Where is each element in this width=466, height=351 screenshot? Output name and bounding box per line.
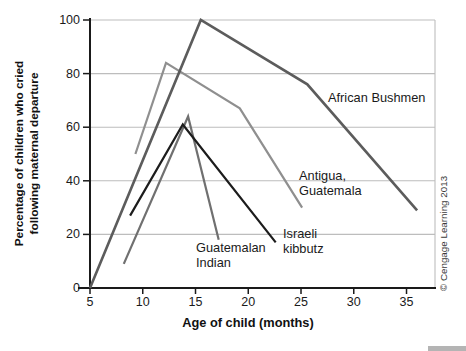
series-label-line: Guatemala <box>299 183 362 198</box>
x-tick-label-35: 35 <box>392 295 422 309</box>
y-axis-title: Percentage of children who cried followi… <box>12 4 41 304</box>
y-tick-label-60: 60 <box>42 120 80 134</box>
separation-anxiety-chart: Percentage of children who cried followi… <box>0 0 466 351</box>
x-axis-title: Age of child (months) <box>128 315 368 330</box>
series-label-antigua-guatemala: Antigua,Guatemala <box>299 168 362 198</box>
series-label-line: Guatemalan <box>196 240 266 255</box>
series-label-line: Israeli <box>283 226 324 241</box>
series-line-antigua-guatemala <box>135 63 302 208</box>
x-tick-label-30: 30 <box>339 295 369 309</box>
series-label-israeli-kibbutz: Israelikibbutz <box>283 226 324 256</box>
series-label-line: African Bushmen <box>328 90 425 105</box>
series-label-line: Indian <box>196 255 266 270</box>
y-tick-label-100: 100 <box>42 13 80 27</box>
series-label-line: Antigua, <box>299 168 362 183</box>
x-tick-label-10: 10 <box>128 295 158 309</box>
x-tick-label-25: 25 <box>286 295 316 309</box>
series-label-african-bushmen: African Bushmen <box>328 90 425 105</box>
y-tick-label-0: 0 <box>42 281 80 295</box>
y-tick-label-40: 40 <box>42 174 80 188</box>
x-tick-label-20: 20 <box>233 295 263 309</box>
y-axis-title-line2: following maternal departure <box>26 4 41 304</box>
y-tick-label-20: 20 <box>42 227 80 241</box>
x-tick-label-5: 5 <box>75 295 105 309</box>
series-label-line: kibbutz <box>283 241 324 256</box>
y-axis-title-line1: Percentage of children who cried <box>12 4 27 304</box>
corner-strip <box>428 346 466 351</box>
y-tick-label-80: 80 <box>42 67 80 81</box>
copyright-credit: © Cengage Learning 2013 <box>438 161 449 291</box>
series-label-guatemalan-indian: GuatemalanIndian <box>196 240 266 270</box>
x-tick-label-15: 15 <box>181 295 211 309</box>
series-line-israeli-kibbutz <box>130 125 276 243</box>
